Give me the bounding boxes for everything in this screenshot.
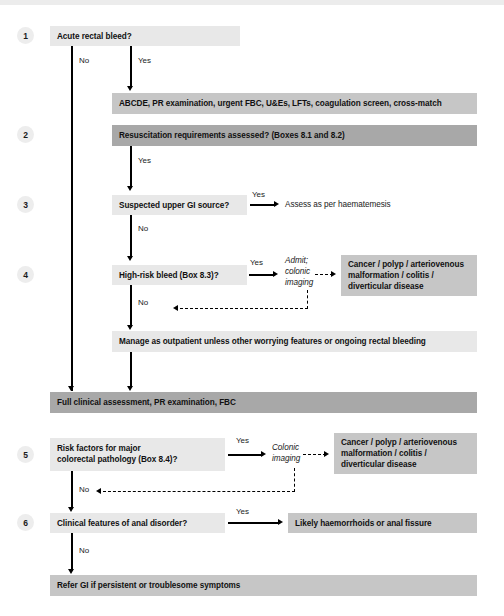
node-haematemesis: Assess as per haematemesis xyxy=(285,199,391,210)
node-abcde: ABCDE, PR examination, urgent FBC, U&Es,… xyxy=(112,93,477,114)
arrowhead-yes-4 xyxy=(273,271,278,277)
arrowhead-yes-5 xyxy=(261,451,266,457)
arrowhead-dashed-loop-4 xyxy=(173,305,178,311)
connector-dashed-to-outcome-5 xyxy=(303,454,326,455)
step-number-1: 1 xyxy=(17,27,34,44)
arrowhead-no-spine xyxy=(68,386,74,391)
edge-label-no-3: No xyxy=(138,224,148,233)
flowchart-canvas: 1 Acute rectal bleed? No Yes ABCDE, PR e… xyxy=(0,0,504,616)
arrowhead-dashed-outcome-4 xyxy=(331,271,336,277)
node-acute-rectal-bleed: Acute rectal bleed? xyxy=(50,26,240,46)
risk-factors-line-2: colorectal pathology (Box 8.4)? xyxy=(57,454,218,465)
arrowhead-no-4 xyxy=(127,325,133,330)
arrowhead-no-5 xyxy=(68,507,74,512)
risk-factors-line-1: Risk factors for major xyxy=(57,443,218,454)
edge-label-yes-3: Yes xyxy=(252,190,265,199)
connector-yes-6 xyxy=(228,522,280,524)
connector-no-4 xyxy=(130,285,132,327)
connector-dashed-loop-5-vertical xyxy=(294,468,295,492)
node-high-risk-bleed: High-risk bleed (Box 8.3)? xyxy=(112,265,247,285)
connector-dashed-loop-4-horizontal xyxy=(180,308,308,309)
arrowhead-no-3 xyxy=(127,256,133,261)
edge-label-no-5: No xyxy=(79,485,89,494)
step-number-2: 2 xyxy=(17,126,34,143)
node-upper-gi-source: Suspected upper GI source? xyxy=(112,195,247,215)
top-band xyxy=(0,0,504,5)
edge-label-yes-4: Yes xyxy=(250,258,263,267)
arrowhead-yes-2 xyxy=(127,186,133,191)
step-number-6: 6 xyxy=(17,514,34,531)
node-risk-factors: Risk factors for major colorectal pathol… xyxy=(50,438,225,471)
node-admit-line3: imaging xyxy=(285,278,313,289)
edge-label-yes-6: Yes xyxy=(236,507,249,516)
arrowhead-manage-to-full xyxy=(127,386,133,391)
edge-label-yes-2: Yes xyxy=(138,156,151,165)
node-admit-line1: Admit; xyxy=(285,256,308,267)
node-haemorrhoids: Likely haemorrhoids or anal fissure xyxy=(288,513,477,533)
node-refer-gi: Refer GI if persistent or troublesome sy… xyxy=(50,575,477,596)
step-number-3: 3 xyxy=(17,196,34,213)
arrowhead-no-6 xyxy=(68,569,74,574)
node-cancer-outcome-5: Cancer / polyp / arteriovenous malformat… xyxy=(334,433,477,474)
node-colonic-imaging-line1: Colonic xyxy=(272,443,299,454)
node-resuscitation: Resuscitation requirements assessed? (Bo… xyxy=(112,125,477,146)
connector-yes-5 xyxy=(228,454,263,456)
node-anal-disorder: Clinical features of anal disorder? xyxy=(50,513,225,533)
node-admit-line2: colonic xyxy=(285,267,310,278)
node-full-clinical-assessment: Full clinical assessment, PR examination… xyxy=(50,392,477,413)
connector-dashed-loop-4-vertical xyxy=(307,290,308,309)
node-colonic-imaging-line2: imaging xyxy=(272,454,300,465)
connector-yes-2 xyxy=(130,146,132,188)
edge-label-no-4: No xyxy=(138,298,148,307)
node-cancer-outcome-4: Cancer / polyp / arteriovenous malformat… xyxy=(341,255,477,296)
edge-label-yes-5: Yes xyxy=(236,436,249,445)
connector-dashed-loop-5-horizontal xyxy=(103,491,295,492)
connector-yes-3 xyxy=(250,204,276,206)
step-number-4: 4 xyxy=(17,266,34,283)
connector-yes-4 xyxy=(249,274,275,276)
arrowhead-yes-1 xyxy=(127,86,133,91)
arrowhead-yes-3 xyxy=(274,201,279,207)
arrowhead-dashed-loop-5 xyxy=(96,488,101,494)
connector-no-3 xyxy=(130,215,132,258)
edge-label-no-6: No xyxy=(79,546,89,555)
connector-yes-1 xyxy=(130,46,132,88)
node-manage-outpatient: Manage as outpatient unless other worryi… xyxy=(112,331,477,352)
edge-label-no-1: No xyxy=(79,56,89,65)
arrowhead-yes-6 xyxy=(278,519,283,525)
connector-no-spine xyxy=(71,46,73,391)
arrowhead-dashed-outcome-5 xyxy=(324,451,329,457)
step-number-5: 5 xyxy=(17,446,34,463)
connector-manage-to-full xyxy=(130,352,132,386)
edge-label-yes-1: Yes xyxy=(138,56,151,65)
connector-no-5 xyxy=(71,471,73,509)
connector-no-6 xyxy=(71,533,73,571)
